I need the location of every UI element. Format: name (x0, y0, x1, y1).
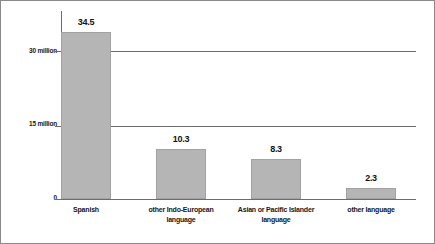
bar-value-label-other-language: 2.3 (346, 174, 396, 183)
x-category-label-other-indo-european-language-line1: other Indo-European (131, 205, 231, 215)
x-category-label-spanish-line1: Spanish (36, 205, 136, 215)
x-axis-line (61, 199, 416, 200)
bar-spanish (61, 32, 111, 199)
x-category-label-other-indo-european-language-line2: language (131, 215, 231, 225)
gridline-15-million (61, 126, 416, 127)
y-axis-tick-labels: 30 million 15 million 0 (1, 11, 57, 200)
y-tick-label-15-million: 15 million (29, 121, 57, 128)
bar-chart-figure: 30 million 15 million 0 34.5 10.3 8.3 2.… (0, 0, 435, 244)
y-tick-mark-0 (55, 199, 61, 200)
gridline-30-million (61, 51, 416, 52)
bar-value-label-spanish: 34.5 (61, 18, 111, 27)
y-tick-label-30-million: 30 million (29, 48, 57, 55)
x-category-label-spanish: Spanish (36, 205, 136, 215)
bar-value-label-other-indo-european-language: 10.3 (156, 135, 206, 144)
bar-other-indo-european-language (156, 149, 206, 199)
x-category-label-other-indo-european-language: other Indo-European language (131, 205, 231, 225)
x-category-label-asian-or-pacific-islander-language-line1: Asian or Pacific Islander (226, 205, 326, 215)
x-category-label-other-language: other language (321, 205, 421, 215)
x-category-label-asian-or-pacific-islander-language-line2: language (226, 215, 326, 225)
bar-other-language (346, 188, 396, 199)
x-category-label-other-language-line1: other language (321, 205, 421, 215)
bar-asian-or-pacific-islander-language (251, 159, 301, 199)
bar-value-label-asian-or-pacific-islander-language: 8.3 (251, 145, 301, 154)
x-category-label-asian-or-pacific-islander-language: Asian or Pacific Islander language (226, 205, 326, 225)
plot-area: 34.5 10.3 8.3 2.3 (61, 11, 416, 200)
